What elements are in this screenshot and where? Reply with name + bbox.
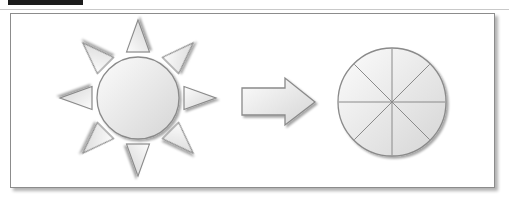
sun-icon [60,20,216,176]
sun-ray-triangle [162,35,201,74]
diagram-svg [11,14,494,187]
sun-ray-triangle [60,87,92,110]
page [0,0,509,202]
sun-ray-triangle [75,122,114,161]
sun-ray-triangle [184,87,216,110]
pie-spokes [339,49,446,156]
right-arrow-icon [242,78,315,125]
sun-ray-triangle [127,20,150,52]
sun-ray-triangle [127,144,150,176]
segmented-circle-icon [338,48,446,156]
top-rule-line [0,9,509,10]
diagram-panel [10,13,495,188]
sun-ray-triangle [75,35,114,74]
figure-label-bar [8,0,83,5]
sun-ray-triangle [162,122,201,161]
sun-center-circle [97,57,179,139]
